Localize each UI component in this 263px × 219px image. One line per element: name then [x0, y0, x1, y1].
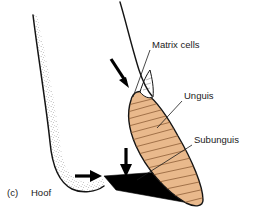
hoof-anatomy-figure: Matrix cells Unguis Subunguis (c) Hoof [0, 0, 263, 219]
matrix-cells-region [140, 70, 153, 98]
arrow-subunguis-down [120, 148, 132, 177]
hoof-diagram-svg: Matrix cells Unguis Subunguis (c) Hoof [0, 0, 263, 219]
caption-title: Hoof [31, 187, 51, 198]
matrix-cells-pocket [140, 70, 153, 98]
caption-letter: (c) [7, 187, 18, 198]
arrow-matrix-down [111, 59, 129, 88]
label-matrix-cells: Matrix cells [152, 39, 200, 50]
label-subunguis: Subunguis [194, 134, 239, 145]
digit-dorsal-outline [33, 15, 104, 192]
label-unguis: Unguis [184, 90, 214, 101]
arrow-pad-right [75, 170, 102, 182]
